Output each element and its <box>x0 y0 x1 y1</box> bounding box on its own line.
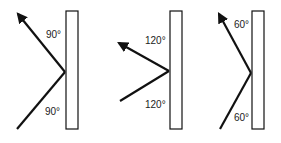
wall <box>66 11 78 129</box>
angle-label-bottom: 90° <box>45 106 60 117</box>
reflected-ray-arrow-icon <box>18 14 65 72</box>
angle-label-bottom: 60° <box>234 112 249 123</box>
wall <box>170 11 182 129</box>
angle-label-top: 60° <box>234 19 249 30</box>
angle-label-top: 90° <box>46 29 61 40</box>
angle-label-bottom: 120° <box>145 99 166 110</box>
reflected-ray-arrow-icon <box>119 43 169 71</box>
angle-label-top: 120° <box>145 35 166 46</box>
panel-2: 120° 120° <box>119 11 182 129</box>
panel-1: 90° 90° <box>17 11 78 129</box>
reflection-diagram: 90° 90° 120° 120° 60° 60° <box>0 0 281 143</box>
wall <box>252 11 264 129</box>
incident-ray <box>17 72 65 129</box>
panel-3: 60° 60° <box>219 11 264 129</box>
incident-ray <box>120 71 169 101</box>
